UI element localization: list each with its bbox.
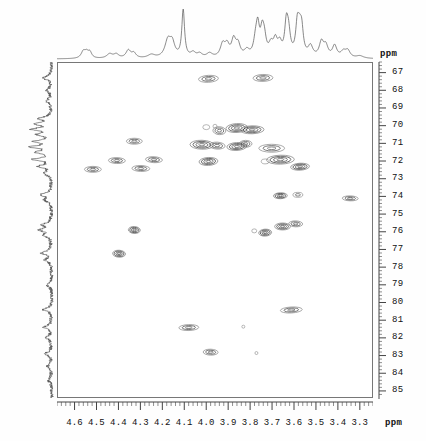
x-axis-ticks bbox=[57, 399, 373, 413]
contour-peak bbox=[108, 157, 125, 163]
top-projection-trace bbox=[57, 8, 373, 62]
y-axis-tick-label: 74 bbox=[392, 192, 404, 201]
y-axis-tick-label: 71 bbox=[392, 139, 404, 148]
contour-peak bbox=[242, 325, 245, 328]
y-axis-tick-label: 85 bbox=[392, 386, 404, 395]
contour-peak bbox=[289, 221, 303, 227]
y-axis-tick-label: 83 bbox=[392, 351, 404, 360]
contour-peak bbox=[280, 306, 302, 313]
x-axis-tick-label: 3.7 bbox=[264, 418, 281, 428]
contour-peak bbox=[213, 126, 226, 135]
contour-peak bbox=[209, 142, 225, 150]
contour-peak bbox=[126, 138, 142, 144]
contour-peak bbox=[259, 229, 272, 237]
x-axis-tick-label: 3.6 bbox=[286, 418, 303, 428]
x-axis-tick-labels: 4.64.54.44.34.24.14.03.93.83.73.63.53.43… bbox=[30, 418, 390, 432]
x-axis-tick-label: 4.6 bbox=[66, 418, 83, 428]
y-axis-tick-label: 70 bbox=[392, 121, 404, 130]
contour-peak bbox=[342, 196, 358, 201]
top-projection-svg bbox=[57, 8, 373, 62]
contour-peak bbox=[179, 324, 199, 331]
left-projection-svg bbox=[28, 62, 56, 398]
nmr-spectrum-page: ppm 676869707172737475767778798081828384… bbox=[0, 0, 426, 441]
x-axis-tick-label: 4.5 bbox=[88, 418, 105, 428]
y-axis-tick-label: 80 bbox=[392, 298, 404, 307]
x-axis bbox=[57, 399, 373, 413]
y-axis: 67686970717273747576777879808182838485 bbox=[376, 58, 426, 403]
x-axis-unit-label: ppm bbox=[385, 418, 402, 428]
x-axis-tick-label: 4.0 bbox=[198, 418, 215, 428]
contour-peak bbox=[252, 229, 257, 233]
contour-peak bbox=[199, 157, 218, 166]
contour-peak bbox=[255, 351, 258, 354]
contour-peak bbox=[203, 125, 210, 130]
contour-peak bbox=[253, 74, 273, 82]
x-axis-tick-label: 4.1 bbox=[176, 418, 193, 428]
y-axis-tick-label: 72 bbox=[392, 157, 404, 166]
x-axis-tick-label: 3.5 bbox=[308, 418, 325, 428]
y-axis-tick-label: 79 bbox=[392, 280, 404, 289]
left-projection-trace bbox=[28, 62, 56, 398]
contour-peak bbox=[112, 250, 125, 258]
y-axis-tick-label: 68 bbox=[392, 86, 404, 95]
x-axis-tick-label: 4.3 bbox=[132, 418, 149, 428]
contour-peak bbox=[84, 166, 101, 172]
contour-peak bbox=[275, 223, 291, 230]
contour-peak bbox=[290, 163, 309, 171]
y-axis-tick-label: 75 bbox=[392, 210, 404, 219]
y-axis-tick-label: 84 bbox=[392, 369, 404, 378]
spectrum-plot-area[interactable] bbox=[57, 62, 373, 398]
contour-peak bbox=[128, 226, 140, 234]
x-axis-tick-label: 3.8 bbox=[242, 418, 259, 428]
x-axis-tick-label: 4.2 bbox=[154, 418, 171, 428]
y-axis-tick-label: 81 bbox=[392, 316, 404, 325]
contour-peak bbox=[266, 155, 294, 165]
contour-peak bbox=[261, 159, 269, 164]
y-axis-tick-label: 76 bbox=[392, 227, 404, 236]
contour-peak bbox=[198, 75, 218, 83]
contour-peak bbox=[203, 349, 218, 355]
y-axis-tick-label: 82 bbox=[392, 333, 404, 342]
y-axis-tick-label: 78 bbox=[392, 263, 404, 272]
contour-peak bbox=[293, 192, 303, 197]
y-axis-tick-label: 77 bbox=[392, 245, 404, 254]
x-axis-tick-label: 3.4 bbox=[329, 418, 346, 428]
y-axis-tick-label: 67 bbox=[392, 68, 404, 77]
x-axis-tick-label: 3.3 bbox=[351, 418, 368, 428]
contour-peak bbox=[145, 156, 162, 163]
contour-peak bbox=[259, 144, 285, 152]
x-axis-tick-label: 3.9 bbox=[220, 418, 237, 428]
x-axis-tick-label: 4.4 bbox=[110, 418, 127, 428]
contour-peak bbox=[273, 193, 287, 199]
contour-peaks-layer bbox=[58, 63, 372, 397]
y-axis-tick-label: 73 bbox=[392, 174, 404, 183]
contour-peak bbox=[132, 165, 150, 171]
y-axis-tick-label: 69 bbox=[392, 103, 404, 112]
contour-peak bbox=[190, 140, 214, 150]
